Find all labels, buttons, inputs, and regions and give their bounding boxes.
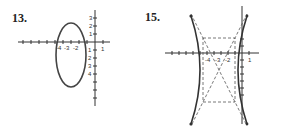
svg-text:-4: -4 — [205, 57, 211, 63]
hyperbola-plot: -4 -3 -2 1 — [141, 0, 282, 126]
svg-text:2: 2 — [89, 23, 93, 29]
svg-text:-2: -2 — [73, 45, 79, 51]
svg-text:1: 1 — [89, 31, 93, 37]
svg-text:3: 3 — [88, 63, 92, 69]
graph-15: 15. -4 -3 -2 — [141, 0, 282, 126]
svg-text:1: 1 — [101, 46, 105, 52]
svg-text:1: 1 — [248, 57, 252, 63]
ellipse-plot: -4 -3 -2 1 3 2 1 1 2 3 4 — [0, 0, 141, 126]
svg-text:2: 2 — [88, 55, 92, 61]
svg-text:3: 3 — [89, 15, 93, 21]
svg-text:1: 1 — [88, 47, 92, 53]
svg-text:4: 4 — [88, 71, 92, 77]
svg-text:-2: -2 — [225, 57, 231, 63]
graph-13: 13. — [0, 0, 141, 126]
svg-text:-3: -3 — [215, 57, 221, 63]
svg-text:-3: -3 — [64, 45, 70, 51]
